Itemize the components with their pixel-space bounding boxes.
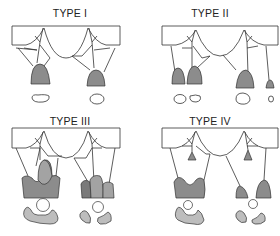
panel-type-1: TYPE I [0, 0, 140, 118]
type-4-diagram [140, 118, 280, 236]
panel-type-2: TYPE II [140, 0, 280, 118]
type-2-diagram [140, 0, 280, 118]
panel-type-4: TYPE IV [140, 118, 280, 236]
type-3-diagram [0, 118, 140, 236]
type-1-diagram [0, 0, 140, 118]
panel-type-3: TYPE III [0, 118, 140, 236]
